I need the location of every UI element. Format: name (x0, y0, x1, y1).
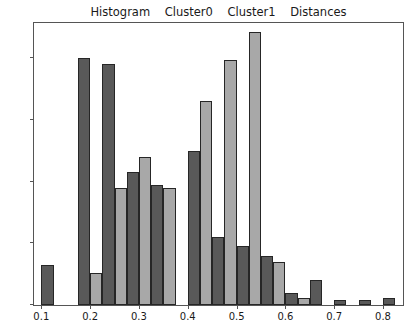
x-axis-tick-label: 0.2 (70, 311, 110, 322)
x-axis-tick (334, 305, 335, 309)
plot-axes: 0102030400.10.20.30.40.50.60.70.8 (33, 22, 404, 306)
bars-container (34, 23, 403, 305)
x-axis-tick (188, 305, 189, 309)
histogram-bar (224, 60, 236, 305)
histogram-bar (41, 265, 53, 305)
histogram-bar (334, 300, 346, 305)
x-axis-tick-label: 0.4 (168, 311, 208, 322)
histogram-bar (383, 298, 395, 305)
histogram-bar (359, 300, 371, 305)
x-axis-tick (139, 305, 140, 309)
y-axis-tick (30, 119, 34, 120)
histogram-bar (298, 298, 310, 305)
x-axis-tick-label: 0.5 (217, 311, 257, 322)
histogram-bar (127, 172, 139, 305)
histogram-bar (310, 280, 322, 305)
histogram-bar (102, 64, 114, 305)
x-axis-tick-label: 0.7 (314, 311, 354, 322)
x-axis-tick (285, 305, 286, 309)
x-axis-tick (237, 305, 238, 309)
y-axis-tick (30, 57, 34, 58)
histogram-bar (78, 58, 90, 305)
histogram-bar (237, 246, 249, 305)
y-axis-tick (30, 181, 34, 182)
histogram-bar (212, 237, 224, 305)
histogram-bar (200, 101, 212, 305)
histogram-bar (139, 157, 151, 305)
y-axis-tick (30, 242, 34, 243)
histogram-bar (249, 32, 261, 305)
x-axis-tick (383, 305, 384, 309)
x-axis-tick (41, 305, 42, 309)
y-axis-tick (30, 304, 34, 305)
histogram-bar (90, 273, 102, 305)
figure: Histogram Cluster0 Cluster1 Distances 01… (0, 0, 414, 334)
histogram-bar (188, 151, 200, 305)
histogram-bar (261, 256, 273, 305)
histogram-bar (273, 262, 285, 305)
histogram-bar (163, 188, 175, 305)
x-axis-tick-label: 0.3 (119, 311, 159, 322)
chart-title: Histogram Cluster0 Cluster1 Distances (33, 4, 404, 20)
x-axis-tick (90, 305, 91, 309)
histogram-bar (151, 185, 163, 305)
x-axis-tick-label: 0.6 (265, 311, 305, 322)
histogram-bar (285, 293, 297, 305)
histogram-bar (115, 188, 127, 305)
x-axis-tick-label: 0.1 (21, 311, 61, 322)
x-axis-tick-label: 0.8 (363, 311, 403, 322)
chart-title-text: Histogram Cluster0 Cluster1 Distances (90, 5, 346, 19)
